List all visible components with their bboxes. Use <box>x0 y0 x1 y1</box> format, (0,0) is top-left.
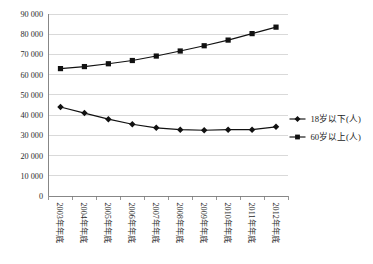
data-point-marker <box>249 31 254 36</box>
data-point-marker <box>273 25 278 30</box>
data-point-marker <box>273 124 280 131</box>
axes <box>49 14 289 196</box>
data-point-marker <box>105 116 112 123</box>
x-axis-labels: 2003年年底2004年年底2005年年底2006年年底2007年年底2008年… <box>55 203 281 243</box>
y-axis-tick-label: 0 <box>39 192 43 201</box>
line-chart: 90 00080 00070 00060 00050 00040 00030 0… <box>0 0 373 264</box>
y-axis-tick-label: 20 000 <box>20 152 43 161</box>
data-point-marker <box>177 126 184 133</box>
x-axis-category-label: 2004年年底 <box>79 203 89 243</box>
x-axis-category-label: 2012年年底 <box>271 203 281 243</box>
data-point-marker <box>57 104 64 111</box>
y-axis-tick-label: 50 000 <box>20 91 43 100</box>
data-point-marker <box>295 116 301 122</box>
y-axis-tick-label: 10 000 <box>20 172 43 181</box>
y-axis-tick-label: 90 000 <box>20 10 43 19</box>
chart-legend: 18岁以下(人)60岁以上(人) <box>290 113 361 142</box>
y-axis-tick-label: 80 000 <box>20 30 43 39</box>
x-axis-category-label: 2011年年底 <box>247 203 257 243</box>
x-axis-category-label: 2009年年底 <box>199 203 209 243</box>
chart-canvas: 90 00080 00070 00060 00050 00040 00030 0… <box>0 0 373 264</box>
x-axis-category-label: 2005年年底 <box>103 203 113 243</box>
legend-item-label: 60岁以上(人) <box>311 131 361 142</box>
x-axis-category-label: 2008年年底 <box>175 203 185 243</box>
x-axis-category-label: 2010年年底 <box>223 203 233 243</box>
x-axis-category-label: 2006年年底 <box>127 203 137 243</box>
data-point-marker <box>249 126 256 133</box>
data-point-marker <box>58 66 63 71</box>
legend-item[interactable]: 60岁以上(人) <box>290 131 361 142</box>
plot-series <box>57 25 279 134</box>
data-point-marker <box>295 135 300 140</box>
data-point-marker <box>226 37 231 42</box>
series-1 <box>57 104 279 134</box>
data-point-marker <box>106 61 111 66</box>
y-axis-tick-label: 60 000 <box>20 71 43 80</box>
series-line <box>60 27 276 68</box>
data-point-marker <box>154 53 159 58</box>
data-point-marker <box>129 121 136 128</box>
y-axis-tick-label: 70 000 <box>20 50 43 59</box>
data-point-marker <box>130 58 135 63</box>
x-axis-category-label: 2003年年底 <box>55 203 65 243</box>
data-point-marker <box>202 43 207 48</box>
legend-item-label: 18岁以下(人) <box>311 113 361 124</box>
data-point-marker <box>225 126 232 133</box>
series-line <box>60 107 276 130</box>
data-point-marker <box>178 48 183 53</box>
series-2 <box>58 25 279 72</box>
legend-item[interactable]: 18岁以下(人) <box>290 113 361 124</box>
y-axis-ticks: 90 00080 00070 00060 00050 00040 00030 0… <box>20 10 43 201</box>
y-axis-tick-label: 30 000 <box>20 131 43 140</box>
data-point-marker <box>201 127 208 133</box>
x-axis-category-label: 2007年年底 <box>151 203 161 243</box>
data-point-marker <box>153 125 160 131</box>
gridlines <box>49 14 289 176</box>
y-axis-tick-label: 40 000 <box>20 111 43 120</box>
data-point-marker <box>82 64 87 69</box>
x-axis-ticks <box>49 196 289 200</box>
